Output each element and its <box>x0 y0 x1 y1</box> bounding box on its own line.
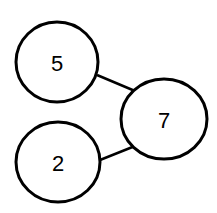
part-node-2: 2 <box>16 122 100 202</box>
whole-value: 7 <box>158 108 170 133</box>
part-node-1: 5 <box>16 22 98 102</box>
whole-node: 7 <box>121 79 207 159</box>
connector-part1-whole <box>97 75 135 91</box>
part-value-1: 5 <box>51 51 63 76</box>
part-value-2: 2 <box>52 151 64 176</box>
number-bond-diagram: 5 7 2 <box>0 0 217 213</box>
connector-part2-whole <box>100 146 135 160</box>
